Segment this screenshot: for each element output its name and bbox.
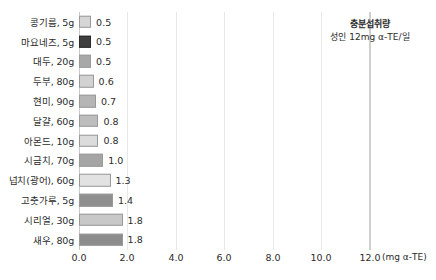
bar-row: 두부, 80g 0.6 xyxy=(0,71,436,91)
category-label: 넙치(광어), 60g xyxy=(0,173,74,187)
bar-group: 1.4 xyxy=(79,194,133,207)
bar-group: 0.8 xyxy=(79,115,119,128)
bar xyxy=(79,75,94,88)
value-label: 1.8 xyxy=(128,214,143,225)
bar xyxy=(79,35,91,48)
x-tick-label: 2.0 xyxy=(119,252,134,263)
bar-group: 1.0 xyxy=(79,154,123,167)
value-label: 0.7 xyxy=(101,96,116,107)
category-label: 마요네즈, 5g xyxy=(0,35,74,49)
category-label: 대두, 20g xyxy=(0,54,74,68)
bar-row: 아몬드, 10g 0.8 xyxy=(0,131,436,151)
x-tick-label: 4.0 xyxy=(168,252,183,263)
value-label: 1.4 xyxy=(118,195,133,206)
x-tick-label: 0.0 xyxy=(71,252,86,263)
value-label: 0.5 xyxy=(96,16,111,27)
bar-group: 1.3 xyxy=(79,174,131,187)
category-label: 시리얼, 30g xyxy=(0,213,74,227)
x-tick-label: 6.0 xyxy=(216,252,231,263)
bar xyxy=(79,233,123,246)
bar-row: 넙치(광어), 60g 1.3 xyxy=(0,170,436,190)
x-axis-ticks: 0.0 2.0 4.0 6.0 8.0 10.0 12.0 xyxy=(0,252,436,268)
category-label: 고춧가루, 5g xyxy=(0,193,74,207)
category-label: 두부, 80g xyxy=(0,74,74,88)
x-tick-label: 8.0 xyxy=(265,252,280,263)
bar-row: 고춧가루, 5g 1.4 xyxy=(0,190,436,210)
bar-group: 0.5 xyxy=(79,16,111,29)
value-label: 0.6 xyxy=(99,76,114,87)
bar-row: 새우, 80g 1.8 xyxy=(0,230,436,250)
bar-group: 0.5 xyxy=(79,35,111,48)
x-tick-label: 10.0 xyxy=(310,252,331,263)
value-label: 0.5 xyxy=(96,56,111,67)
bar-group: 0.8 xyxy=(79,134,119,147)
bar xyxy=(79,16,91,29)
category-label: 현미, 90g xyxy=(0,94,74,108)
bar-group: 1.8 xyxy=(79,233,143,246)
bar xyxy=(79,55,91,68)
bar xyxy=(79,95,96,108)
value-label: 0.5 xyxy=(96,36,111,47)
bar xyxy=(79,214,123,227)
value-label: 0.8 xyxy=(103,115,118,126)
vitamin-e-bar-chart: 충분섭취량 성인 12mg α-TE/일 콩기름, 5g 0.5 마요네즈, 5… xyxy=(0,0,436,280)
value-label: 1.8 xyxy=(128,234,143,245)
bar-row: 시리얼, 30g 1.8 xyxy=(0,210,436,230)
bar-row: 대두, 20g 0.5 xyxy=(0,52,436,72)
category-label: 달걀, 60g xyxy=(0,114,74,128)
bar-row: 달걀, 60g 0.8 xyxy=(0,111,436,131)
bar xyxy=(79,194,113,207)
bar xyxy=(79,154,103,167)
value-label: 1.3 xyxy=(116,175,131,186)
x-tick-label: 12.0 xyxy=(359,252,380,263)
value-label: 0.8 xyxy=(103,135,118,146)
bar xyxy=(79,174,111,187)
bar-group: 0.6 xyxy=(79,75,114,88)
bar-row: 현미, 90g 0.7 xyxy=(0,91,436,111)
category-label: 시금치, 70g xyxy=(0,153,74,167)
category-label: 아몬드, 10g xyxy=(0,134,74,148)
category-label: 콩기름, 5g xyxy=(0,15,74,29)
bar-group: 0.7 xyxy=(79,95,116,108)
value-label: 1.0 xyxy=(108,155,123,166)
bar-row: 마요네즈, 5g 0.5 xyxy=(0,32,436,52)
bar-group: 0.5 xyxy=(79,55,111,68)
bar-rows: 콩기름, 5g 0.5 마요네즈, 5g 0.5 대두, 20g 0.5 두부,… xyxy=(0,12,436,250)
bar-group: 1.8 xyxy=(79,214,143,227)
category-label: 새우, 80g xyxy=(0,233,74,247)
bar xyxy=(79,115,98,128)
bar xyxy=(79,134,98,147)
bar-row: 시금치, 70g 1.0 xyxy=(0,151,436,171)
x-axis-unit-label: (mg α-TE) xyxy=(382,252,427,262)
bar-row: 콩기름, 5g 0.5 xyxy=(0,12,436,32)
